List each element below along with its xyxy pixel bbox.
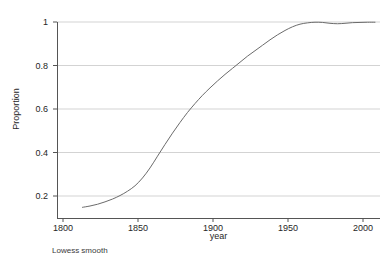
y-tick-label-0.4: 0.4 xyxy=(22,148,48,158)
y-tick-label-0.6: 0.6 xyxy=(22,104,48,114)
x-axis-title: year xyxy=(57,231,380,241)
y-tick-marks xyxy=(53,22,57,196)
gridlines xyxy=(57,22,380,196)
axis-lines xyxy=(57,22,380,219)
y-tick-label-0.2: 0.2 xyxy=(22,191,48,201)
y-tick-label-0.8: 0.8 xyxy=(22,61,48,71)
y-tick-label-1: 1 xyxy=(22,17,48,27)
chart-caption: Lowess smooth xyxy=(52,246,108,256)
lowess-smooth-line xyxy=(83,22,376,207)
chart-figure: 1 0.8 0.6 0.4 0.2 1800 1850 1900 1950 20… xyxy=(0,0,387,268)
y-axis-title: Proportion xyxy=(11,74,21,144)
